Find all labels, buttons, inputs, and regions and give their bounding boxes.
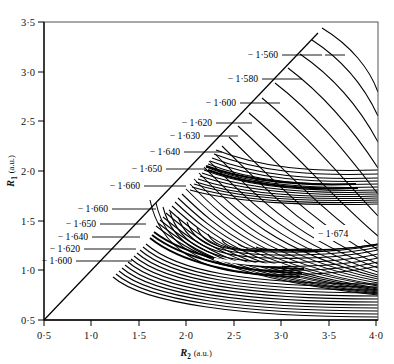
plot-svg: 0·5 1·0 1·5 2·0 2·5 3·0 3·5 4·0 0·5 1·0 … [0,0,394,364]
contour-plot-figure: 0·5 1·0 1·5 2·0 2·5 3·0 3·5 4·0 0·5 1·0 … [0,0,394,364]
contour-label: − 1·600 [42,255,72,266]
y-tick-label: 1·5 [21,216,35,227]
contour-label: − 1·630 [170,130,200,141]
x-tick-label: 1·5 [132,330,146,341]
contour-label: − 1·600 [206,97,236,108]
contour-label: − 1·650 [66,218,96,229]
y-tick-label: 2·0 [21,166,35,177]
contour-label: − 1·660 [110,180,140,191]
y-tick-label: 0·5 [21,315,35,326]
y-axis-unit: (a.u.) [6,155,16,173]
x-tick-label: 2·5 [227,330,241,341]
y-tick-label: 1·0 [21,265,35,276]
contour-label: − 1·640 [58,231,88,242]
contour-label: − 1·660 [78,203,108,214]
contour-label: − 1·620 [182,117,212,128]
x-tick-label: 4·0 [369,330,383,341]
x-axis-subscript: 2 [187,353,191,361]
contour-label: − 1·620 [50,243,80,254]
x-axis-symbol: R [179,347,187,358]
contour-label: − 1·560 [248,49,278,60]
x-tick-label: 2·0 [179,330,193,341]
contour-label-minimum: − 1·674 [318,228,348,239]
y-tick-label: 3·5 [21,17,35,28]
contour-label: − 1·580 [228,73,258,84]
x-tick-label: 3·5 [322,330,336,341]
x-tick-label: 0·5 [37,330,51,341]
contour-label: − 1·650 [132,163,162,174]
y-axis-subscript: 1 [11,176,19,180]
y-axis-symbol: R [5,180,16,188]
y-tick-label: 3·0 [21,67,35,78]
x-tick-label: 1·0 [84,330,98,341]
x-tick-label: 3·0 [274,330,288,341]
y-tick-label: 2·5 [21,116,35,127]
x-axis-unit: (a.u.) [194,348,212,358]
contour-label: − 1·640 [150,146,180,157]
